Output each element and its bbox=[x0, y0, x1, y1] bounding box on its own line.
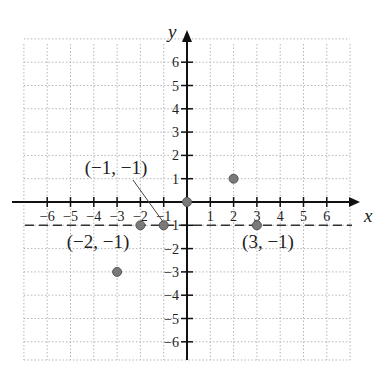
x-axis-arrow-icon bbox=[349, 197, 360, 207]
data-point bbox=[252, 221, 261, 230]
y-axis-arrow-icon bbox=[182, 30, 192, 42]
point-label: (−2, −1) bbox=[67, 231, 130, 253]
y-tick-label: 6 bbox=[172, 55, 179, 70]
point-label: (3, −1) bbox=[242, 231, 294, 253]
x-axis-label: x bbox=[363, 205, 373, 226]
x-tick-label: −3 bbox=[110, 209, 125, 224]
y-tick-label: 5 bbox=[172, 79, 179, 94]
data-point bbox=[229, 174, 238, 183]
x-tick-label: 6 bbox=[323, 209, 330, 224]
annotations: (−1, −1)(−2, −1)(3, −1) bbox=[67, 157, 294, 253]
y-tick-label: 3 bbox=[172, 125, 179, 140]
x-tick-label: 1 bbox=[207, 209, 214, 224]
y-tick-label: 4 bbox=[172, 102, 179, 117]
y-tick-label: −6 bbox=[164, 335, 179, 350]
y-tick-label: −4 bbox=[164, 288, 179, 303]
point-label: (−1, −1) bbox=[85, 157, 148, 179]
y-tick-label: −3 bbox=[164, 265, 179, 280]
x-tick-label: 4 bbox=[277, 209, 284, 224]
y-tick-label: 2 bbox=[172, 148, 179, 163]
x-tick-label: −4 bbox=[86, 209, 101, 224]
y-axis-label: y bbox=[166, 21, 177, 42]
x-tick-label: −5 bbox=[63, 209, 78, 224]
coordinate-plane: −6−5−4−3−2−1123456−6−5−4−3−2−1123456 (−1… bbox=[0, 0, 389, 386]
x-tick-label: 2 bbox=[230, 209, 237, 224]
y-tick-label: −5 bbox=[164, 312, 179, 327]
data-point bbox=[136, 221, 145, 230]
y-tick-label: 1 bbox=[172, 172, 179, 187]
data-point bbox=[183, 198, 192, 207]
data-point bbox=[159, 221, 168, 230]
x-tick-label: 5 bbox=[300, 209, 307, 224]
x-tick-label: −6 bbox=[40, 209, 55, 224]
data-point bbox=[113, 267, 122, 276]
axes bbox=[12, 30, 360, 360]
y-tick-label: −2 bbox=[164, 242, 179, 257]
